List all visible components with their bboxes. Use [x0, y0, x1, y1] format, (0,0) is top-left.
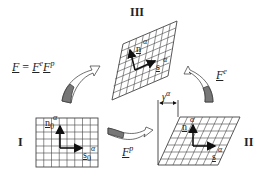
Fp-sup: p: [129, 144, 133, 153]
vectors-I: [60, 126, 82, 148]
shear-label: γα: [162, 90, 170, 102]
gamma-sup: α: [166, 89, 170, 98]
vec-s-III-sup: α: [163, 56, 167, 64]
eq-equals: =: [22, 60, 29, 74]
stage-label-II: II: [244, 136, 253, 148]
arrow-plastic: [108, 127, 153, 139]
grid-intermediate-config: [158, 117, 240, 165]
shear-indicator: [158, 100, 178, 165]
eq-F: F: [12, 60, 19, 74]
arrow-total-F: [62, 66, 100, 103]
eq-Fp-sup: p: [50, 59, 54, 68]
label-Fe: Fe: [216, 68, 227, 81]
Fe-sup: e: [223, 67, 227, 76]
vec-s-III: s: [156, 62, 160, 72]
stage-label-III: III: [130, 6, 144, 18]
vec-n-II: n: [182, 122, 187, 132]
equation: F = FeFp: [12, 60, 54, 73]
vec-n-III: n: [136, 44, 141, 54]
vec-s-II: s: [212, 152, 216, 162]
vec-n-II-sup: α: [190, 116, 194, 124]
vec-s0-sup: α: [91, 145, 95, 153]
stage-label-I: I: [18, 136, 23, 148]
vec-n-III-sup: α: [143, 38, 147, 46]
n0-sub: 0: [50, 122, 54, 131]
s0-sub: 0: [87, 154, 91, 163]
vec-s-II-sup: α: [218, 146, 222, 154]
vec-n0-sup: α: [53, 114, 57, 122]
label-Fp: Fp: [122, 145, 133, 158]
vectors-II: [193, 125, 215, 146]
vec-s0: s0: [83, 150, 91, 163]
arrow-elastic: [184, 66, 213, 102]
